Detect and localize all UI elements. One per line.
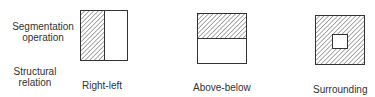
segmentation-diagrams bbox=[0, 0, 375, 97]
above-below-figure bbox=[198, 14, 247, 64]
right-left-caption: Right-left bbox=[82, 80, 122, 91]
right-left-figure bbox=[81, 11, 128, 61]
surrounding-inner-square bbox=[333, 35, 348, 49]
surrounding-figure bbox=[316, 16, 365, 65]
surrounding-caption: Surrounding bbox=[313, 84, 367, 95]
above-below-shaded-region bbox=[198, 14, 247, 39]
right-left-shaded-region bbox=[81, 11, 105, 61]
above-below-caption: Above-below bbox=[193, 82, 251, 93]
